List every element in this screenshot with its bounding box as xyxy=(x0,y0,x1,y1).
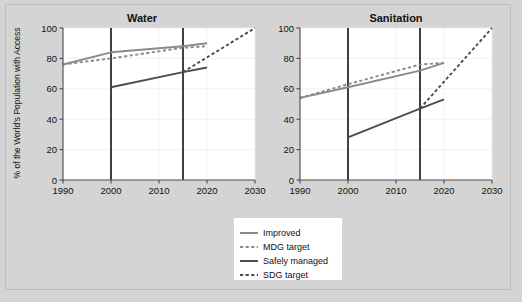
panel-sanitation: Sanitation 020406080100 1990200020102020… xyxy=(278,12,502,196)
legend-label-safely-managed: Safely managed xyxy=(263,256,328,266)
chart-canvas: % of the World's Population with Access … xyxy=(6,5,510,289)
x-tick-label-2030: 2030 xyxy=(244,185,265,196)
y-ticks-water: 020406080100 xyxy=(41,23,63,186)
y-tick-label-40: 40 xyxy=(283,114,294,125)
x-tick-label-2010: 2010 xyxy=(148,185,169,196)
legend-label-sdg-target: SDG target xyxy=(263,270,309,280)
x-tick-label-2000: 2000 xyxy=(100,185,121,196)
panel-title-water: Water xyxy=(127,12,158,24)
x-ticks-water: 19902000201020202030 xyxy=(52,180,265,196)
y-axis-title: % of the World's Population with Access xyxy=(12,28,22,179)
x-tick-label-2020: 2020 xyxy=(433,185,454,196)
y-tick-label-40: 40 xyxy=(46,114,57,125)
y-tick-label-80: 80 xyxy=(46,53,57,64)
legend-label-mdg-target: MDG target xyxy=(263,242,310,252)
legend: ImprovedMDG targetSafely managedSDG targ… xyxy=(234,218,342,280)
panel-title-sanitation: Sanitation xyxy=(369,12,422,24)
legend-label-improved: Improved xyxy=(263,228,301,238)
x-tick-label-2010: 2010 xyxy=(385,185,406,196)
y-tick-label-100: 100 xyxy=(41,23,57,34)
figure-plate: % of the World's Population with Access … xyxy=(5,4,511,290)
x-tick-label-2000: 2000 xyxy=(337,185,358,196)
y-tick-label-20: 20 xyxy=(283,144,294,155)
y-tick-label-0: 0 xyxy=(52,175,57,186)
y-tick-label-60: 60 xyxy=(283,83,294,94)
y-ticks-sanitation: 020406080100 xyxy=(278,23,300,186)
x-tick-label-1990: 1990 xyxy=(52,185,73,196)
figure-root: % of the World's Population with Access … xyxy=(0,0,522,302)
panel-water: Water 020406080100 19902000201020202030 xyxy=(41,12,265,196)
y-tick-label-60: 60 xyxy=(46,83,57,94)
x-tick-label-2030: 2030 xyxy=(481,185,502,196)
x-tick-label-1990: 1990 xyxy=(289,185,310,196)
y-tick-label-0: 0 xyxy=(289,175,294,186)
y-tick-label-80: 80 xyxy=(283,53,294,64)
y-tick-label-20: 20 xyxy=(46,144,57,155)
x-ticks-sanitation: 19902000201020202030 xyxy=(289,180,502,196)
x-tick-label-2020: 2020 xyxy=(196,185,217,196)
y-tick-label-100: 100 xyxy=(278,23,294,34)
